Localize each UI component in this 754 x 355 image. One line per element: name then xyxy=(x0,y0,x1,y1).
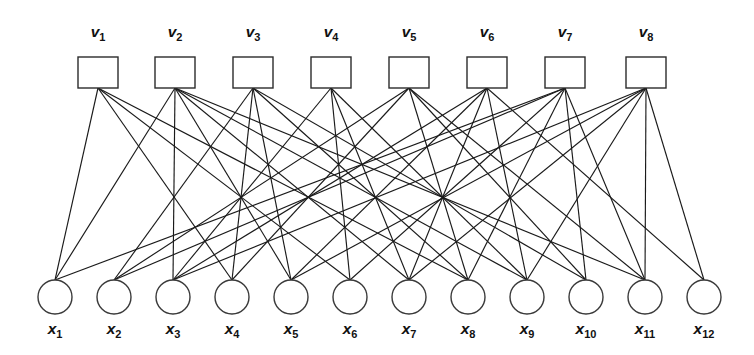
edge xyxy=(527,88,646,280)
edge xyxy=(175,88,527,280)
variable-node-group xyxy=(38,280,721,314)
check-node-label-v6: v6 xyxy=(480,23,495,43)
variable-node-label-x3: x3 xyxy=(165,320,181,340)
edge xyxy=(55,88,98,280)
edge xyxy=(468,88,565,280)
edge xyxy=(98,88,468,280)
tanner-graph-canvas: v1v2v3v4v5v6v7v8x1x2x3x4x5x6x7x8x9x10x11… xyxy=(0,0,754,355)
variable-node-x3[interactable] xyxy=(156,280,190,314)
edge xyxy=(175,88,409,280)
edge xyxy=(331,88,409,280)
edge xyxy=(98,88,350,280)
variable-node-x10[interactable] xyxy=(569,280,603,314)
check-node-label-v8: v8 xyxy=(639,23,654,43)
check-node-label-v3: v3 xyxy=(246,23,261,43)
variable-node-label-x4: x4 xyxy=(224,320,241,340)
check-node-v3[interactable] xyxy=(233,57,273,88)
variable-node-x2[interactable] xyxy=(97,280,131,314)
variable-node-x12[interactable] xyxy=(687,280,721,314)
check-node-v8[interactable] xyxy=(626,57,666,88)
variable-node-label-x1: x1 xyxy=(47,320,63,340)
edge xyxy=(173,88,331,280)
variable-node-label-x5: x5 xyxy=(283,320,299,340)
variable-node-label-x11: x11 xyxy=(634,320,655,340)
check-node-v1[interactable] xyxy=(78,57,118,88)
edge xyxy=(487,88,527,280)
variable-node-label-x10: x10 xyxy=(575,320,597,340)
variable-node-x5[interactable] xyxy=(274,280,308,314)
variable-node-label-x12: x12 xyxy=(693,320,715,340)
variable-node-x6[interactable] xyxy=(333,280,367,314)
check-node-label-v1: v1 xyxy=(91,23,106,43)
variable-node-x1[interactable] xyxy=(38,280,72,314)
variable-node-x11[interactable] xyxy=(628,280,662,314)
variable-node-x4[interactable] xyxy=(215,280,249,314)
edge xyxy=(645,88,646,280)
variable-node-label-x2: x2 xyxy=(106,320,122,340)
edge xyxy=(253,88,586,280)
edge xyxy=(114,88,253,280)
check-node-group xyxy=(78,57,666,88)
variable-node-x9[interactable] xyxy=(510,280,544,314)
node-label-group: v1v2v3v4v5v6v7v8x1x2x3x4x5x6x7x8x9x10x11… xyxy=(47,23,715,340)
tanner-graph-figure: v1v2v3v4v5v6v7v8x1x2x3x4x5x6x7x8x9x10x11… xyxy=(0,0,754,355)
check-node-v4[interactable] xyxy=(311,57,351,88)
edge xyxy=(565,88,645,280)
check-node-v7[interactable] xyxy=(545,57,585,88)
variable-node-label-x7: x7 xyxy=(401,320,417,340)
edge xyxy=(291,88,646,280)
edge xyxy=(98,88,232,280)
edge xyxy=(173,88,487,280)
check-node-v2[interactable] xyxy=(155,57,195,88)
check-node-label-v4: v4 xyxy=(324,23,340,43)
check-node-v5[interactable] xyxy=(389,57,429,88)
edge xyxy=(487,88,704,280)
edge xyxy=(173,88,175,280)
edge xyxy=(55,88,175,280)
variable-node-label-x9: x9 xyxy=(519,320,535,340)
edge xyxy=(646,88,704,280)
check-node-label-v2: v2 xyxy=(168,23,183,43)
edge-group xyxy=(55,88,704,280)
variable-node-label-x8: x8 xyxy=(460,320,476,340)
variable-node-label-x6: x6 xyxy=(342,320,358,340)
check-node-label-v7: v7 xyxy=(558,23,573,43)
check-node-v6[interactable] xyxy=(467,57,507,88)
edge xyxy=(55,88,565,280)
edge xyxy=(114,88,409,280)
variable-node-x7[interactable] xyxy=(392,280,426,314)
edge xyxy=(175,88,291,280)
variable-node-x8[interactable] xyxy=(451,280,485,314)
edge xyxy=(409,88,468,280)
check-node-label-v5: v5 xyxy=(402,23,417,43)
